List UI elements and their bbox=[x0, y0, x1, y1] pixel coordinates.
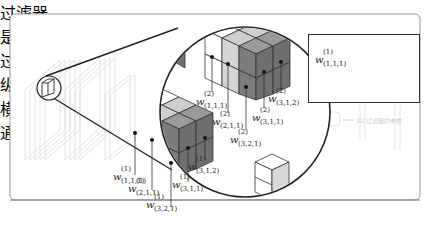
filter2-label-211: w(2)(2,1,1) bbox=[212, 117, 221, 127]
filter1-label-311: w(1)(3,1,1) bbox=[172, 180, 181, 190]
filter2-label-311: w(2)(3,1,1) bbox=[252, 113, 261, 123]
legend-box bbox=[308, 34, 420, 103]
faint-caption: 3D 过滤器的参数 bbox=[356, 116, 402, 125]
filter1-label-111: w(1)(1,1,1) bbox=[113, 172, 122, 182]
legend-weight-symbol: w (1) (1,1,1) bbox=[315, 55, 324, 65]
filter2-label-111: w(2)(1,1,1) bbox=[196, 97, 205, 107]
filter1-label-321: w(1)(3,2,1) bbox=[146, 200, 155, 210]
filter1-label-211: w(1)(2,1,1) bbox=[128, 184, 137, 194]
filter2-label-321: w(2)(3,2,1) bbox=[230, 135, 239, 145]
filter1-label-312: w(1)(3,1,2) bbox=[188, 162, 197, 172]
filter2-label-312: w(2)(3,1,2) bbox=[268, 94, 277, 104]
